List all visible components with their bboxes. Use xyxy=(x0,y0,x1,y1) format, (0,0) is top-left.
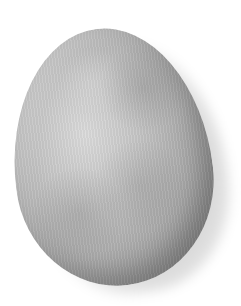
egg-photo xyxy=(0,0,231,300)
